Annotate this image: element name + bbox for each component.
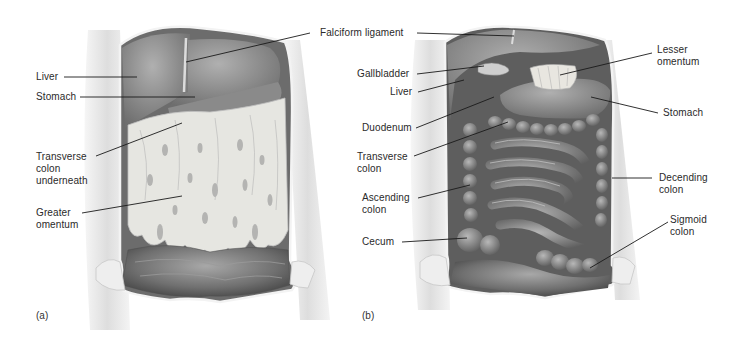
label-duodenum: Duodenum — [362, 122, 412, 134]
panel-a-illustration — [84, 27, 330, 330]
label-lesser-omentum: Lesser omentum — [657, 44, 699, 68]
label-falciform-ligament: Falciform ligament — [320, 27, 404, 39]
label-stomach-b: Stomach — [663, 107, 703, 119]
panel-b-illustration — [411, 27, 640, 310]
label-descending-colon: Decending colon — [659, 172, 708, 196]
label-stomach-a: Stomach — [36, 91, 76, 103]
label-gallbladder: Gallbladder — [357, 68, 409, 80]
label-greater-omentum: Greater omentum — [36, 207, 78, 231]
label-transverse-colon-b: Transverse colon — [357, 151, 408, 175]
panel-tag-a: (a) — [36, 310, 48, 321]
label-sigmoid-colon: Sigmoid colon — [670, 214, 707, 238]
label-liver-a: Liver — [36, 71, 58, 83]
label-cecum: Cecum — [362, 236, 394, 248]
label-transverse-colon-a: Transverse colon underneath — [36, 151, 88, 187]
label-liver-b: Liver — [390, 86, 412, 98]
panel-tag-b: (b) — [362, 310, 374, 321]
label-ascending-colon: Ascending colon — [362, 192, 410, 216]
